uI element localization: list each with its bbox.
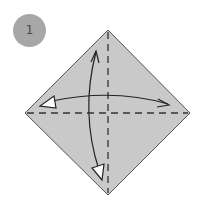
step-number-badge: 1 bbox=[13, 14, 46, 47]
